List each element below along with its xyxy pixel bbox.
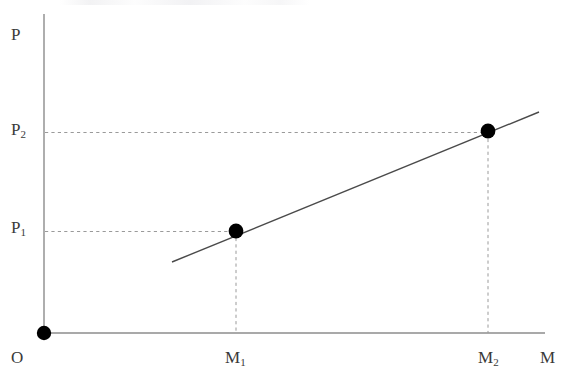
- x-tick-label-m2: M2: [478, 349, 499, 366]
- x-tick-label-m1-subscript: 1: [240, 356, 246, 368]
- y-tick-label-p2-subscript: 2: [20, 128, 26, 140]
- chart-canvas: P P2 P1 O M1 M2 M: [0, 0, 565, 379]
- x-tick-label-m2-base: M: [478, 348, 493, 367]
- x-tick-label-m1-base: M: [225, 348, 240, 367]
- data-point-origin: [37, 326, 51, 340]
- y-tick-label-p2: P2: [11, 121, 26, 138]
- x-tick-label-m1: M1: [225, 349, 246, 366]
- data-point-1: [229, 224, 244, 239]
- x-axis-title: M: [540, 349, 555, 366]
- y-tick-label-p1: P1: [11, 219, 26, 236]
- data-point-2: [481, 124, 496, 139]
- x-tick-label-m2-subscript: 2: [493, 356, 499, 368]
- y-axis-title: P: [11, 26, 20, 43]
- y-tick-label-p1-subscript: 1: [20, 226, 26, 238]
- origin-label: O: [11, 349, 23, 366]
- chart-plot-svg: [0, 0, 565, 379]
